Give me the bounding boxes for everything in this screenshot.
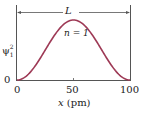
x-unit: (pm) [67,97,91,108]
y-axis-label: ψ21 [2,46,18,56]
arrowhead-right-icon [126,11,130,14]
psi-symbol: ψ [2,45,10,56]
y-subscript: 1 [10,51,14,58]
arrowhead-left-icon [17,11,21,14]
length-label: L [63,6,74,16]
x-tick-label-0: 0 [14,85,20,95]
state-label: n = 1 [64,29,89,38]
state-text: n = 1 [64,28,89,38]
x-axis-label: x (pm) [58,98,91,108]
x-tick-label-100: 100 [120,85,139,95]
x-tick-label-50: 50 [66,85,79,95]
y-superscript: 2 [10,43,14,50]
y-tick-0: 0 [4,75,10,85]
